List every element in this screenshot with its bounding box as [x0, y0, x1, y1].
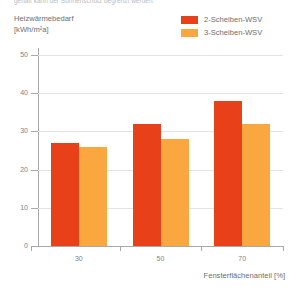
- x-tick-mark: [31, 246, 32, 251]
- caption-cutoff-text: gehalt kann der Sonnenschutz begrenzt we…: [14, 0, 244, 4]
- y-axis-title: Heizwärmebedarf [kWh/m²a]: [14, 14, 74, 35]
- legend-item-series-2: 3-Scheiben-WSV: [181, 26, 285, 39]
- chart-legend: 2-Scheiben-WSV 3-Scheiben-WSV: [181, 13, 285, 39]
- x-tick-mark: [201, 246, 202, 251]
- caption-strip: gehalt kann der Sonnenschutz begrenzt we…: [14, 0, 244, 9]
- y-axis-title-line2: [kWh/m²a]: [14, 25, 74, 36]
- x-tick-label: 50: [146, 255, 176, 262]
- y-tick-mark: [31, 93, 38, 94]
- bar: [242, 124, 270, 246]
- x-tick-mark: [120, 246, 121, 251]
- bar: [161, 139, 189, 246]
- plot-area: [38, 55, 283, 246]
- bar: [133, 124, 161, 246]
- gridline: [38, 55, 283, 56]
- y-tick-label: 10: [8, 204, 28, 211]
- y-axis-title-line1: Heizwärmebedarf: [14, 14, 74, 23]
- legend-item-series-1: 2-Scheiben-WSV: [181, 13, 285, 26]
- y-tick-mark: [31, 170, 38, 171]
- y-tick-label: 0: [8, 242, 28, 249]
- bar: [79, 147, 107, 246]
- gridline: [38, 93, 283, 94]
- x-tick-label: 30: [64, 255, 94, 262]
- legend-label-series-1: 2-Scheiben-WSV: [204, 15, 262, 24]
- legend-swatch-series-1: [181, 16, 198, 24]
- y-tick-label: 30: [8, 127, 28, 134]
- y-tick-mark: [31, 131, 38, 132]
- y-tick-label: 40: [8, 89, 28, 96]
- y-tick-label: 50: [8, 51, 28, 58]
- x-tick-label: 70: [227, 255, 257, 262]
- bar: [51, 143, 79, 246]
- x-tick-mark: [283, 246, 284, 251]
- x-axis-title: Fensterflächenanteil [%]: [204, 271, 285, 280]
- y-tick-mark: [31, 246, 38, 247]
- y-tick-mark: [31, 55, 38, 56]
- bar: [214, 101, 242, 246]
- y-tick-mark: [31, 208, 38, 209]
- x-axis-line: [31, 246, 283, 247]
- legend-label-series-2: 3-Scheiben-WSV: [204, 28, 262, 37]
- y-tick-label: 20: [8, 166, 28, 173]
- legend-swatch-series-2: [181, 29, 198, 37]
